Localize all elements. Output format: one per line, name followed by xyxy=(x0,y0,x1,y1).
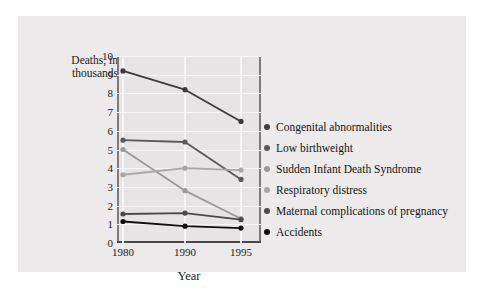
data-point-marker xyxy=(120,138,125,143)
legend-item-label: Congenital abnormalities xyxy=(276,121,392,133)
legend-marker-icon xyxy=(264,208,270,214)
data-point-marker xyxy=(182,166,187,171)
legend-marker-icon xyxy=(264,145,270,151)
data-point-marker xyxy=(182,87,187,92)
data-point-marker xyxy=(238,119,243,124)
legend-item: Low birthweight xyxy=(264,137,484,158)
series-line xyxy=(120,68,243,124)
legend-marker-icon xyxy=(264,166,270,172)
series-polyline xyxy=(123,71,241,121)
data-point-marker xyxy=(238,177,243,182)
y-axis-tick-label: 6 xyxy=(108,125,114,137)
legend-marker-icon xyxy=(264,124,270,130)
y-axis-tick-label: 7 xyxy=(108,106,114,118)
series-polyline xyxy=(123,150,241,219)
series-line xyxy=(120,147,243,221)
legend-item: Sudden Infant Death Syndrome xyxy=(264,158,484,179)
legend-item-label: Low birthweight xyxy=(276,142,353,154)
series-line xyxy=(120,210,243,222)
data-series-layer xyxy=(117,56,261,243)
y-axis-tick-label: 10 xyxy=(102,50,113,62)
x-axis-tick-label: 1990 xyxy=(174,246,196,258)
data-point-marker xyxy=(120,172,125,177)
data-point-marker xyxy=(120,68,125,73)
series-polyline xyxy=(123,168,241,175)
legend-item: Maternal complications of pregnancy xyxy=(264,200,484,221)
legend-marker-icon xyxy=(264,229,270,235)
legend-item-label: Accidents xyxy=(276,226,322,238)
chart-figure: Deaths, in thousands 012345678910 198019… xyxy=(0,0,484,290)
series-line xyxy=(120,219,243,231)
data-point-marker xyxy=(182,210,187,215)
legend-item-label: Sudden Infant Death Syndrome xyxy=(276,163,421,175)
data-point-marker xyxy=(182,139,187,144)
series-polyline xyxy=(123,213,241,220)
data-point-marker xyxy=(182,188,187,193)
data-point-marker xyxy=(182,224,187,229)
legend-item-label: Respiratory distress xyxy=(276,184,367,196)
plot-area: 012345678910 198019901995 xyxy=(117,56,261,243)
y-axis-tick-label: 8 xyxy=(108,87,114,99)
x-axis-title: Year xyxy=(117,269,261,284)
data-point-marker xyxy=(120,219,125,224)
legend-item: Congenital abnormalities xyxy=(264,116,484,137)
legend-marker-icon xyxy=(264,187,270,193)
legend-item: Accidents xyxy=(264,221,484,242)
series-line xyxy=(120,166,243,178)
y-axis-tick-label: 2 xyxy=(108,200,114,212)
data-point-marker xyxy=(120,147,125,152)
y-axis-tick-label: 1 xyxy=(108,218,114,230)
legend-item-label: Maternal complications of pregnancy xyxy=(276,205,448,217)
data-point-marker xyxy=(238,167,243,172)
data-point-marker xyxy=(238,225,243,230)
y-axis-tick-label: 4 xyxy=(108,162,114,174)
data-point-marker xyxy=(238,217,243,222)
y-axis-tick-label: 9 xyxy=(108,69,114,81)
data-point-marker xyxy=(120,211,125,216)
series-polyline xyxy=(123,221,241,228)
chart-legend: Congenital abnormalitiesLow birthweightS… xyxy=(264,116,484,242)
y-axis-tick-label: 5 xyxy=(108,144,114,156)
legend-item: Respiratory distress xyxy=(264,179,484,200)
x-axis-tick-label: 1995 xyxy=(230,246,252,258)
chart-panel: Deaths, in thousands 012345678910 198019… xyxy=(18,16,466,272)
y-axis-tick-label: 3 xyxy=(108,181,114,193)
x-axis-tick-label: 1980 xyxy=(112,246,134,258)
